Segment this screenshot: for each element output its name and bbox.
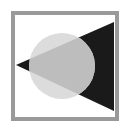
circle-triangle-overlap-icon — [0, 0, 133, 124]
